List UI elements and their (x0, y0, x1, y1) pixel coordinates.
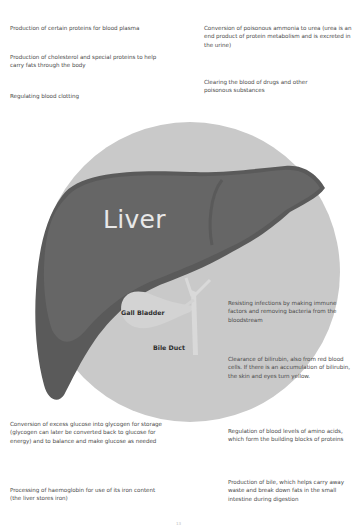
function-clear-drugs: Clearing the blood of drugs and other po… (204, 78, 334, 95)
bile-duct-label: Bile Duct (153, 344, 185, 351)
function-plasma-proteins: Production of certain proteins for blood… (10, 24, 175, 32)
liver-label: Liver (103, 205, 166, 234)
function-glucose-glycogen: Conversion of excess glucose into glycog… (10, 420, 172, 445)
function-amino-acids: Regulation of blood levels of amino acid… (228, 427, 356, 444)
gall-bladder-label: Gall Bladder (121, 309, 165, 316)
page-number: 13 (176, 521, 181, 526)
function-resist-infections: Resisting infections by making immune fa… (228, 299, 356, 324)
function-bilirubin-clearance: Clearance of bilirubin, also from red bl… (228, 355, 356, 380)
function-haemoglobin: Processing of haemoglobin for use of its… (10, 486, 160, 503)
function-bile-production: Production of bile, which helps carry aw… (228, 478, 356, 503)
function-ammonia-urea: Conversion of poisonous ammonia to urea … (204, 24, 354, 49)
function-cholesterol: Production of cholesterol and special pr… (10, 53, 158, 70)
function-blood-clotting: Regulating blood clotting (10, 92, 170, 100)
